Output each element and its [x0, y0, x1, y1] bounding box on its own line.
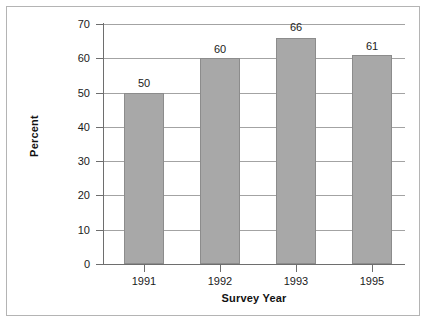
gridline-70: [103, 24, 405, 25]
y-tick-mark-50: [96, 93, 103, 94]
y-tick-label-60: 60: [56, 53, 90, 64]
bar-value-label-1992: 60: [185, 44, 255, 55]
x-axis-line: [103, 264, 405, 265]
y-tick-label-70: 70: [56, 19, 90, 30]
y-tick-mark-10: [96, 230, 103, 231]
x-tick-label-1991: 1991: [109, 275, 179, 287]
bar-1991[interactable]: [124, 93, 164, 264]
y-tick-label-40: 40: [56, 122, 90, 133]
x-tick-mark-1991: [144, 265, 145, 272]
bar-1993[interactable]: [276, 38, 316, 264]
x-tick-mark-1993: [296, 265, 297, 272]
y-axis-line: [103, 23, 104, 265]
x-tick-label-1992: 1992: [185, 275, 255, 287]
chart-screenshot: 70 60 50 40 30 20 10 0 1991 1992 1993: [0, 0, 427, 323]
y-tick-mark-30: [96, 161, 103, 162]
y-tick-mark-60: [96, 58, 103, 59]
x-tick-mark-1992: [220, 265, 221, 272]
x-tick-mark-1995: [372, 265, 373, 272]
bar-1995[interactable]: [352, 55, 392, 264]
x-axis-title: Survey Year: [103, 292, 405, 304]
y-tick-label-0: 0: [56, 259, 90, 270]
bar-1992[interactable]: [200, 58, 240, 264]
bar-value-label-1991: 50: [109, 78, 179, 89]
y-tick-label-30: 30: [56, 156, 90, 167]
bar-value-label-1993: 66: [261, 22, 331, 33]
bar-chart-figure: 70 60 50 40 30 20 10 0 1991 1992 1993: [0, 0, 427, 323]
x-tick-label-1995: 1995: [337, 275, 407, 287]
y-tick-mark-70: [96, 24, 103, 25]
x-tick-label-1993: 1993: [261, 275, 331, 287]
y-axis-title: Percent: [28, 96, 40, 176]
bar-value-label-1995: 61: [337, 41, 407, 52]
y-tick-mark-0: [96, 264, 103, 265]
y-tick-mark-20: [96, 195, 103, 196]
y-tick-label-50: 50: [56, 88, 90, 99]
y-tick-mark-40: [96, 127, 103, 128]
y-tick-label-20: 20: [56, 190, 90, 201]
y-tick-label-10: 10: [56, 225, 90, 236]
plot-area: [103, 24, 405, 264]
